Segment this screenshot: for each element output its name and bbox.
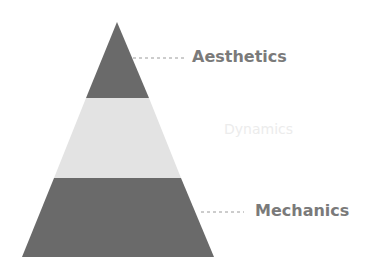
pyramid-layer-aesthetics <box>86 22 149 98</box>
pyramid-graphic <box>0 0 371 269</box>
mda-pyramid-diagram: Aesthetics Dynamics Mechanics <box>0 0 371 269</box>
label-mechanics: Mechanics <box>255 203 349 219</box>
pyramid-layer-dynamics <box>54 98 181 178</box>
pyramid-layer-mechanics <box>22 178 214 257</box>
label-dynamics: Dynamics <box>224 122 293 136</box>
label-aesthetics: Aesthetics <box>192 49 287 65</box>
